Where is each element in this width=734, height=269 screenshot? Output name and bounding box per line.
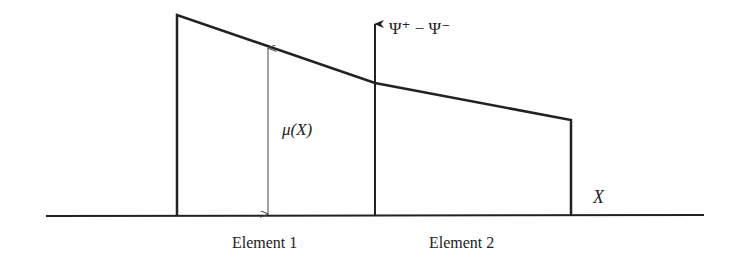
element-1-label: Element 1 [232,234,297,252]
axis-label: Ψ⁺ − Ψ⁻ [389,18,450,39]
diagram-canvas [0,0,734,269]
mu-label: μ(X) [282,120,312,140]
element-2-label: Element 2 [429,234,494,252]
x-axis-label: X [593,187,604,208]
